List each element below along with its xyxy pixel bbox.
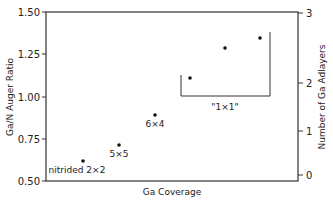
point-label: nitrided 2×2 (49, 165, 106, 175)
ytick-label: 1.25 (18, 49, 40, 60)
data-point (223, 46, 227, 50)
right-axis (298, 13, 303, 175)
ytick-label: 1.00 (18, 92, 40, 103)
data-point (258, 36, 262, 40)
data-point (81, 159, 85, 163)
data-point (188, 76, 192, 80)
ytick-label: 0.50 (18, 176, 40, 187)
y2tick-label: 1 (306, 126, 312, 137)
data-point (117, 143, 121, 147)
ytick-label: 1.50 (18, 7, 40, 18)
y-axis-label: Ga/N Auger Ratio (5, 58, 15, 136)
data-points (81, 36, 262, 163)
data-point (153, 113, 157, 117)
point-label: 5×5 (110, 149, 129, 159)
bracket (181, 32, 270, 96)
x-axis-label: Ga Coverage (143, 187, 202, 197)
point-label: 6×4 (146, 119, 165, 129)
y2tick-label: 3 (306, 8, 312, 19)
y2tick-label: 2 (306, 78, 312, 89)
ytick-label: 0.75 (18, 134, 40, 145)
y2-axis-label: Number of Ga Adlayers (317, 44, 327, 149)
bracket-label: "1×1" (211, 102, 238, 112)
chart: 1.50 1.25 1.00 0.75 0.50 3 2 1 0 Ga/N Au… (0, 0, 333, 207)
y2tick-label: 0 (306, 170, 312, 181)
